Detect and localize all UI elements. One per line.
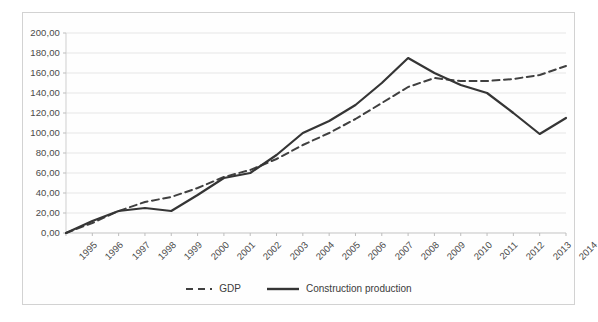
y-tick-label: 200,00 <box>20 27 60 38</box>
legend-label-gdp: GDP <box>219 283 241 294</box>
y-tick-label: 60,00 <box>20 167 60 178</box>
y-tick-label: 160,00 <box>20 67 60 78</box>
y-tick-label: 140,00 <box>20 87 60 98</box>
legend-item-gdp: GDP <box>186 283 241 294</box>
legend-label-construction-production: Construction production <box>306 283 412 294</box>
y-axis <box>63 33 66 233</box>
y-tick-label: 80,00 <box>20 147 60 158</box>
y-tick-label: 40,00 <box>20 187 60 198</box>
y-tick-label: 0,00 <box>20 227 60 238</box>
x-axis <box>66 233 566 236</box>
series-line-construction-production <box>66 58 566 233</box>
y-tick-label: 120,00 <box>20 107 60 118</box>
y-tick-label: 20,00 <box>20 207 60 218</box>
series-layer <box>66 58 566 233</box>
legend-item-construction-production: Construction production <box>267 283 412 294</box>
y-tick-label: 100,00 <box>20 127 60 138</box>
legend-swatch-solid <box>267 286 299 292</box>
legend-swatch-dashed <box>186 286 212 292</box>
line-chart <box>0 0 598 322</box>
y-tick-label: 180,00 <box>20 47 60 58</box>
chart-legend: GDP Construction production <box>0 283 598 294</box>
